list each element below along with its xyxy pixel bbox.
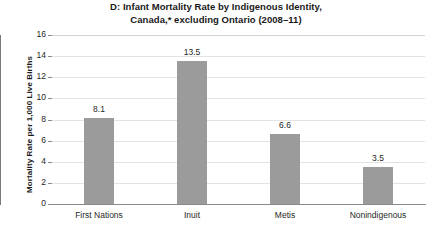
bar [84,118,114,204]
gridline [52,77,425,78]
gridline [52,98,425,99]
chart-title: D: Infant Mortality Rate by Indigenous I… [0,1,432,26]
bar-value-label: 13.5 [162,48,222,57]
bar-value-label: 6.6 [255,121,315,130]
bar-value-label: 3.5 [348,154,408,163]
x-axis-category-label: Nonindigenous [323,210,432,220]
bar [363,167,393,204]
gridline [52,56,425,57]
y-axis-tick-label: 0 [0,199,46,208]
y-axis-tick-label: 6 [0,136,46,145]
y-axis-tick-label: 16 [0,30,46,39]
x-axis-line [52,204,426,205]
chart-figure: D: Infant Mortality Rate by Indigenous I… [0,0,432,234]
y-axis-tick-label: 10 [0,93,46,102]
y-axis-tick-label: 12 [0,72,46,81]
bar [177,61,207,204]
plot-area [52,35,425,204]
y-axis-tick-label: 4 [0,157,46,166]
bar-value-label: 8.1 [69,105,129,114]
y-axis-tick-label: 2 [0,178,46,187]
y-axis-tick-label: 14 [0,51,46,60]
chart-title-line-1: D: Infant Mortality Rate by Indigenous I… [0,1,432,14]
chart-title-line-2: Canada,* excluding Ontario (2008–11) [0,14,432,27]
bar [270,134,300,204]
y-axis-line [0,35,1,205]
y-axis-tick-label: 8 [0,115,46,124]
gridline [52,35,425,36]
